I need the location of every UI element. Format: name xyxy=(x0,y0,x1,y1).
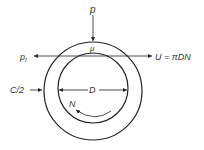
friction-label: pf xyxy=(19,52,28,63)
clearance-label: C/2 xyxy=(10,85,24,95)
viscosity-label: μ xyxy=(89,44,95,53)
velocity-label: U = πDN xyxy=(155,52,191,62)
diameter-label: D xyxy=(89,85,96,95)
load-label: p xyxy=(89,4,96,15)
rotation-arrow xyxy=(76,110,111,117)
journal-bearing-diagram: p μ pf U = πDN C/2 D N xyxy=(0,0,204,150)
speed-label: N xyxy=(69,99,76,109)
